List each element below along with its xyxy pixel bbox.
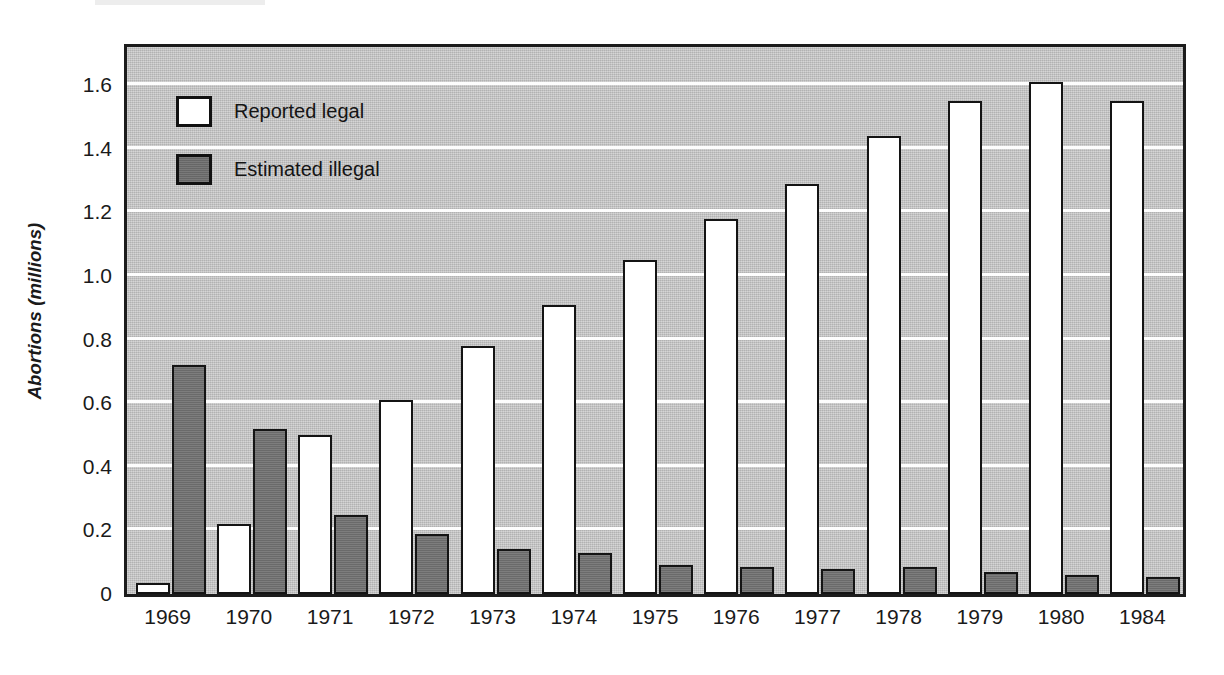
y-tick-label: 1.4 bbox=[44, 137, 112, 161]
x-tick-label: 1979 bbox=[957, 605, 1004, 629]
legend: Reported legal Estimated illegal bbox=[176, 89, 380, 205]
x-tick-label: 1969 bbox=[144, 605, 191, 629]
bar[interactable] bbox=[542, 305, 576, 594]
x-tick-label: 1980 bbox=[1038, 605, 1085, 629]
y-axis-tick-labels: 00.20.40.60.81.01.21.41.6 bbox=[44, 44, 112, 597]
bar[interactable] bbox=[1029, 82, 1063, 594]
bar-chart-figure: Abortions (millions) 00.20.40.60.81.01.2… bbox=[0, 0, 1224, 675]
bar-group bbox=[617, 47, 698, 594]
y-tick-label: 0.4 bbox=[44, 455, 112, 479]
x-tick-label: 1977 bbox=[794, 605, 841, 629]
y-tick-label: 0 bbox=[44, 582, 112, 606]
y-tick-label: 0.6 bbox=[44, 391, 112, 415]
bar-group bbox=[374, 47, 455, 594]
bar[interactable] bbox=[578, 553, 612, 594]
x-tick-label: 1978 bbox=[875, 605, 922, 629]
bar-group bbox=[536, 47, 617, 594]
bar-group bbox=[1105, 47, 1186, 594]
y-axis-title: Abortions (millions) bbox=[24, 191, 46, 431]
bar[interactable] bbox=[172, 365, 206, 594]
bar-group bbox=[780, 47, 861, 594]
bar-group bbox=[1024, 47, 1105, 594]
bar[interactable] bbox=[821, 569, 855, 594]
x-axis-tick-labels: 1969197019711972197319741975197619771978… bbox=[124, 605, 1186, 645]
bar-group bbox=[942, 47, 1023, 594]
y-tick-label: 0.2 bbox=[44, 518, 112, 542]
bar[interactable] bbox=[1065, 575, 1099, 594]
legend-item-reported-legal[interactable]: Reported legal bbox=[176, 89, 380, 133]
bar[interactable] bbox=[334, 515, 368, 595]
legend-swatch-estimated-illegal bbox=[176, 154, 212, 185]
bar[interactable] bbox=[379, 400, 413, 594]
legend-label-reported-legal: Reported legal bbox=[234, 100, 364, 123]
bar[interactable] bbox=[461, 346, 495, 594]
legend-label-estimated-illegal: Estimated illegal bbox=[234, 158, 380, 181]
x-tick-label: 1971 bbox=[307, 605, 354, 629]
bar[interactable] bbox=[298, 435, 332, 594]
bar[interactable] bbox=[623, 260, 657, 594]
y-tick-label: 1.0 bbox=[44, 264, 112, 288]
x-tick-label: 1976 bbox=[713, 605, 760, 629]
bar[interactable] bbox=[867, 136, 901, 594]
legend-item-estimated-illegal[interactable]: Estimated illegal bbox=[176, 147, 380, 191]
bar[interactable] bbox=[1110, 101, 1144, 594]
bar[interactable] bbox=[253, 429, 287, 594]
bar[interactable] bbox=[217, 524, 251, 594]
plot-area: Reported legal Estimated illegal bbox=[124, 44, 1186, 597]
bar[interactable] bbox=[136, 583, 170, 594]
x-tick-label: 1970 bbox=[225, 605, 272, 629]
bar[interactable] bbox=[984, 572, 1018, 594]
x-tick-label: 1972 bbox=[388, 605, 435, 629]
bar[interactable] bbox=[785, 184, 819, 594]
x-tick-label: 1974 bbox=[550, 605, 597, 629]
x-tick-label: 1984 bbox=[1119, 605, 1166, 629]
y-tick-label: 1.2 bbox=[44, 200, 112, 224]
bar-group bbox=[455, 47, 536, 594]
bar[interactable] bbox=[704, 219, 738, 594]
bar[interactable] bbox=[948, 101, 982, 594]
x-tick-label: 1975 bbox=[632, 605, 679, 629]
y-tick-label: 1.6 bbox=[44, 73, 112, 97]
bar[interactable] bbox=[740, 567, 774, 594]
bar[interactable] bbox=[497, 549, 531, 594]
bar[interactable] bbox=[903, 567, 937, 594]
legend-swatch-reported-legal bbox=[176, 96, 212, 127]
bar[interactable] bbox=[1146, 577, 1180, 594]
x-tick-label: 1973 bbox=[469, 605, 516, 629]
bar-group bbox=[699, 47, 780, 594]
y-tick-label: 0.8 bbox=[44, 328, 112, 352]
bar-group bbox=[861, 47, 942, 594]
bar[interactable] bbox=[415, 534, 449, 594]
bar[interactable] bbox=[659, 565, 693, 594]
